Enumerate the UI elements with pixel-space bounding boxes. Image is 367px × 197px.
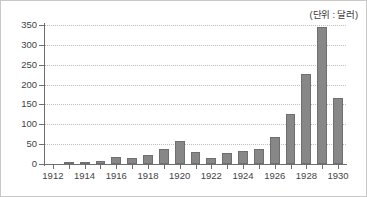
x-tick-1922	[211, 165, 212, 169]
bar-1926	[270, 137, 280, 164]
x-axis-label-1914: 1914	[74, 171, 95, 181]
bar-1914	[80, 162, 90, 164]
x-tick-1913	[69, 165, 70, 169]
x-axis-label-1928: 1928	[296, 171, 317, 181]
bar-1927	[286, 114, 296, 164]
y-tick-100	[39, 124, 44, 125]
y-axis-label-150: 150	[3, 100, 37, 110]
y-axis-label-300: 300	[3, 40, 37, 50]
x-axis-label-1920: 1920	[169, 171, 190, 181]
bar-1919	[159, 149, 169, 164]
bar-1913	[64, 162, 74, 164]
y-tick-50	[39, 144, 44, 145]
gridline-350	[45, 25, 346, 26]
x-tick-1925	[259, 165, 260, 169]
x-axis-label-1922: 1922	[201, 171, 222, 181]
bar-1923	[222, 153, 232, 164]
y-tick-300	[39, 45, 44, 46]
x-tick-1927	[291, 165, 292, 169]
x-tick-1928	[306, 165, 307, 169]
y-axis-label-0: 0	[3, 159, 37, 169]
bar-1922	[206, 158, 216, 164]
y-tick-250	[39, 65, 44, 66]
x-tick-1929	[322, 165, 323, 169]
bar-1928	[301, 74, 311, 164]
gridline-250	[45, 65, 346, 66]
x-axis-label-1912: 1912	[42, 171, 63, 181]
bar-1917	[127, 158, 137, 164]
x-tick-1924	[243, 165, 244, 169]
plot-area	[45, 25, 346, 164]
x-tick-1920	[180, 165, 181, 169]
x-tick-1919	[164, 165, 165, 169]
x-tick-1917	[132, 165, 133, 169]
y-axis-label-100: 100	[3, 120, 37, 130]
x-tick-1916	[116, 165, 117, 169]
gridline-300	[45, 45, 346, 46]
y-tick-150	[39, 104, 44, 105]
bar-1924	[238, 151, 248, 164]
bar-1916	[111, 157, 121, 164]
unit-annotation: (단위 : 달러)	[310, 7, 358, 21]
x-axis-label-1930: 1930	[328, 171, 349, 181]
bar-1925	[254, 149, 264, 164]
x-tick-1923	[227, 165, 228, 169]
y-axis-label-350: 350	[3, 20, 37, 30]
x-tick-1926	[275, 165, 276, 169]
x-tick-1918	[148, 165, 149, 169]
x-tick-1915	[100, 165, 101, 169]
x-axis-label-1924: 1924	[232, 171, 253, 181]
bar-1930	[333, 98, 343, 164]
y-tick-350	[39, 25, 44, 26]
y-tick-200	[39, 85, 44, 86]
x-tick-1930	[338, 165, 339, 169]
y-axis-label-250: 250	[3, 60, 37, 70]
bar-1921	[191, 152, 201, 164]
bar-1920	[175, 141, 185, 164]
x-tick-1912	[53, 165, 54, 169]
x-axis-label-1918: 1918	[137, 171, 158, 181]
y-axis-label-50: 50	[3, 139, 37, 149]
bar-1918	[143, 155, 153, 164]
bar-1929	[317, 27, 327, 164]
chart-figure: (단위 : 달러) 050100150200250300350 19121914…	[0, 0, 367, 197]
x-axis-label-1916: 1916	[106, 171, 127, 181]
bar-1915	[96, 161, 106, 164]
y-axis-label-200: 200	[3, 80, 37, 90]
x-tick-1914	[85, 165, 86, 169]
y-axis-labels: 050100150200250300350	[1, 25, 37, 164]
x-axis-label-1926: 1926	[264, 171, 285, 181]
x-tick-1921	[196, 165, 197, 169]
y-tick-0	[39, 164, 44, 165]
